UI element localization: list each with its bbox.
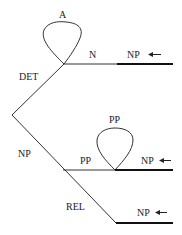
arrow-left-icon [159, 158, 171, 163]
arrow-left-icon [155, 210, 167, 215]
arrow-left-icon [148, 52, 161, 57]
label-rel: REL [66, 201, 85, 212]
label-np-branch: NP [18, 148, 31, 159]
label-pp-loop: PP [109, 114, 121, 125]
arc-np-branch [12, 115, 116, 223]
label-np-exit-3: NP [137, 207, 150, 218]
label-det: DET [19, 71, 38, 82]
loop-pp-arc [97, 128, 133, 170]
label-pp-arc: PP [80, 155, 92, 166]
label-a: A [59, 9, 67, 20]
label-np-exit-1: NP [127, 49, 140, 60]
loop-a-arc [43, 22, 81, 64]
label-np-exit-2: NP [141, 155, 154, 166]
label-n: N [89, 49, 96, 60]
transition-network-diagram: A N NP DET NP PP PP NP REL NP [0, 0, 182, 235]
